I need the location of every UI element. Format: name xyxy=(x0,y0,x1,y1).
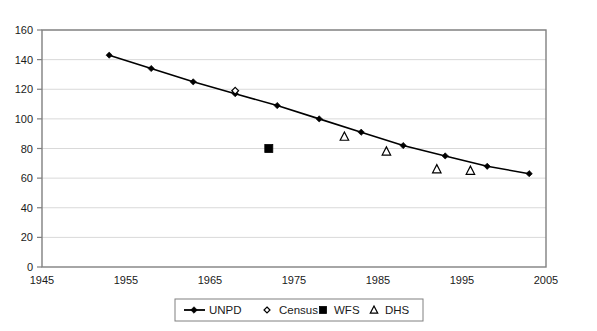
legend-label: Census xyxy=(279,304,318,316)
y-axis-tick-label: 40 xyxy=(21,202,33,214)
x-axis-tick-label: 2005 xyxy=(534,274,558,286)
x-axis-tick-label: 1985 xyxy=(366,274,390,286)
y-axis-tick-label: 20 xyxy=(21,231,33,243)
chart-legend: UNPDCensusWFSDHS xyxy=(175,299,423,321)
chart-container: 020406080100120140160 194519551965197519… xyxy=(0,0,597,331)
filled-square-marker xyxy=(265,145,273,153)
y-axis-tick-label: 100 xyxy=(15,113,33,125)
line-chart: 020406080100120140160 194519551965197519… xyxy=(0,0,597,331)
x-axis-tick-label: 1995 xyxy=(450,274,474,286)
legend-label: WFS xyxy=(334,304,360,316)
series-wfs xyxy=(265,145,273,153)
legend-label: UNPD xyxy=(209,304,242,316)
y-axis-tick-label: 0 xyxy=(27,261,33,273)
x-axis-tick-label: 1955 xyxy=(114,274,138,286)
y-axis-tick-label: 60 xyxy=(21,172,33,184)
x-axis-tick-label: 1965 xyxy=(198,274,222,286)
filled-square-marker xyxy=(319,306,326,313)
y-axis-tick-label: 120 xyxy=(15,83,33,95)
x-axis-tick-label: 1945 xyxy=(30,274,54,286)
y-axis-tick-label: 80 xyxy=(21,143,33,155)
y-axis-tick-label: 160 xyxy=(15,24,33,36)
legend-label: DHS xyxy=(385,304,410,316)
y-axis-tick-label: 140 xyxy=(15,54,33,66)
x-axis-tick-label: 1975 xyxy=(282,274,306,286)
